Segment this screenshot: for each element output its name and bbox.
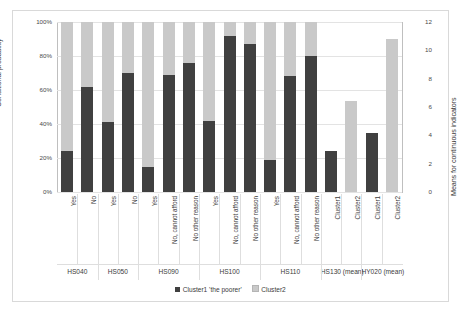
legend-swatch-cluster2: [252, 285, 259, 292]
legend-label: Cluster1 'the poorer': [183, 286, 242, 293]
chart-legend: Cluster1 'the poorer'Cluster2: [0, 285, 461, 293]
primary-y-tick-label: 40%: [10, 121, 52, 127]
category-cell-divider: [118, 194, 119, 264]
x-category-label: No, cannot afford: [171, 196, 178, 244]
bar-segment-cluster1: [325, 151, 337, 192]
category-cell-divider: [199, 194, 200, 264]
primary-y-tick-label: 100%: [10, 19, 52, 25]
bar-segment-cluster2: [203, 22, 215, 121]
legend-item[interactable]: Cluster1 'the poorer': [175, 285, 241, 293]
primary-y-axis-title: Conditional probability: [0, 39, 3, 107]
primary-y-tick-label: 0%: [10, 189, 52, 195]
bar-segment-cluster1: [61, 151, 73, 192]
bar-segment-cluster1: [203, 121, 215, 192]
x-category-label: Cluster1: [334, 196, 341, 219]
bar-segment-cluster2: [142, 22, 154, 167]
bar-segment-cluster2: [224, 22, 236, 36]
secondary-y-tick-label: 12: [406, 19, 432, 25]
bar-segment-cluster1: [142, 167, 154, 193]
bar-segment-cluster1: [183, 63, 195, 192]
x-group-label: HS110: [260, 268, 321, 275]
category-cell-divider: [219, 194, 220, 264]
primary-y-tick-label: 60%: [10, 87, 52, 93]
bar-segment-cluster1: [244, 44, 256, 192]
bar-column: [183, 22, 195, 192]
group-divider: [260, 264, 261, 280]
bar-column: [284, 22, 296, 192]
x-category-label: Yes: [110, 196, 117, 206]
bar-column: [122, 22, 134, 192]
x-group-label: HS100: [199, 268, 260, 275]
bar-segment-cluster1: [122, 73, 134, 192]
x-category-label: Yes: [273, 196, 280, 206]
bar-column: [345, 22, 357, 192]
category-cell-divider: [382, 194, 383, 264]
secondary-y-tick-label: 8: [406, 76, 432, 82]
bar-column: [61, 22, 73, 192]
group-divider: [138, 264, 139, 280]
category-cell-divider: [138, 194, 139, 264]
bar-column: [244, 22, 256, 192]
group-divider: [98, 264, 99, 280]
bar-segment-cluster1: [163, 75, 175, 192]
category-cell-divider: [98, 194, 99, 264]
primary-y-tick-label: 80%: [10, 53, 52, 59]
x-category-label: Cluster2: [394, 196, 401, 219]
category-cell-divider: [301, 194, 302, 264]
x-group-label: HY020 (mean): [361, 268, 402, 275]
category-cell-divider: [179, 194, 180, 264]
bar-segment-cluster2: [122, 22, 134, 73]
bar-column: [264, 22, 276, 192]
category-cell-divider: [321, 194, 322, 264]
bar-segment-cluster1: [224, 36, 236, 192]
bar-column: [203, 22, 215, 192]
secondary-y-tick-label: 4: [406, 132, 432, 138]
x-category-label: No other reason: [313, 196, 320, 241]
bar-column: [366, 22, 378, 192]
legend-item[interactable]: Cluster2: [252, 285, 286, 293]
bar-segment-cluster2: [386, 39, 398, 192]
bar-column: [163, 22, 175, 192]
bar-segment-cluster1: [284, 76, 296, 192]
legend-swatch-cluster1: [175, 287, 180, 292]
bar-segment-cluster2: [61, 22, 73, 151]
x-category-label: No: [131, 196, 138, 204]
bar-segment-cluster1: [366, 133, 378, 193]
bar-segment-cluster2: [163, 22, 175, 75]
x-category-label: Cluster1: [374, 196, 381, 219]
bar-column: [102, 22, 114, 192]
bar-segment-cluster2: [183, 22, 195, 63]
bar-segment-cluster2: [264, 22, 276, 160]
category-cell-divider: [260, 194, 261, 264]
category-cell-divider: [240, 194, 241, 264]
secondary-y-tick-label: 6: [406, 104, 432, 110]
bar-column: [142, 22, 154, 192]
bar-column: [305, 22, 317, 192]
category-cell-divider: [341, 194, 342, 264]
secondary-y-axis-line: [402, 22, 403, 193]
bar-segment-cluster1: [81, 87, 93, 192]
bar-segment-cluster2: [244, 22, 256, 44]
category-cell-divider: [280, 194, 281, 264]
gridline: [57, 192, 402, 193]
bar-column: [224, 22, 236, 192]
bar-segment-cluster2: [81, 22, 93, 87]
x-category-label: No, cannot afford: [293, 196, 300, 244]
secondary-y-tick-label: 2: [406, 161, 432, 167]
bar-segment-cluster2: [102, 22, 114, 122]
bar-segment-cluster2: [305, 22, 317, 56]
bar-segment-cluster2: [345, 101, 357, 192]
category-cell-divider: [361, 194, 362, 264]
bar-column: [81, 22, 93, 192]
group-row-divider: [57, 264, 403, 265]
primary-y-tick-label: 20%: [10, 155, 52, 161]
x-category-label: No: [90, 196, 97, 204]
x-group-label: HS090: [138, 268, 199, 275]
chart-container: 0%20%40%60%80%100% Conditional probabili…: [0, 0, 461, 314]
secondary-y-tick-label: 0: [406, 189, 432, 195]
bar-column: [386, 22, 398, 192]
x-category-label: No, cannot afford: [232, 196, 239, 244]
secondary-y-tick-label: 10: [406, 47, 432, 53]
x-category-label: Cluster2: [354, 196, 361, 219]
bar-segment-cluster2: [284, 22, 296, 76]
